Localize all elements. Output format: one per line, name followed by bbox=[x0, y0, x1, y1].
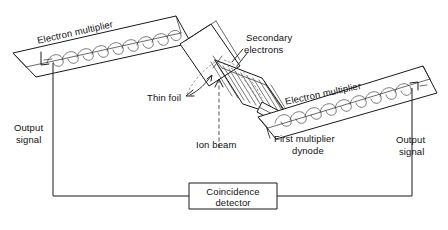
secondary-electrons-label-line1: Secondary bbox=[246, 32, 292, 44]
coincidence-detector-label-line2: detector bbox=[189, 197, 277, 209]
coincidence-detector-label-line1: Coincidence bbox=[189, 186, 277, 198]
first-multiplier-dynode-label-line1: First multiplier bbox=[274, 133, 335, 145]
output-signal-right-label-line1: Output bbox=[396, 134, 425, 146]
ion-beam-label: Ion beam bbox=[196, 139, 236, 151]
first-multiplier-dynode-label-line2: dynode bbox=[292, 145, 324, 157]
output-signal-left-label-line2: signal bbox=[16, 134, 41, 146]
output-signal-left-label-line1: Output bbox=[14, 122, 43, 134]
thin-foil-label: Thin foil bbox=[147, 92, 181, 104]
figure-root: Electron multiplier Electron multiplier … bbox=[0, 0, 448, 230]
output-signal-right-label-line2: signal bbox=[399, 146, 424, 158]
secondary-electrons-label-line2: electrons bbox=[244, 44, 283, 56]
ion-beam bbox=[215, 78, 223, 148]
output-signal-left-wire bbox=[53, 63, 189, 196]
